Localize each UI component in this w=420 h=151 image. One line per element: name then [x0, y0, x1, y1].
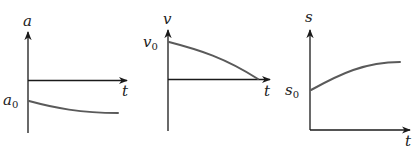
kinematics-graphs: a t a0 v t v0 s t s0 [0, 0, 420, 151]
x-axis-label-t: t [264, 82, 271, 100]
panel-acceleration-time: a t a0 [3, 12, 129, 133]
acceleration-curve [29, 101, 118, 113]
initial-value-label-a0: a0 [3, 91, 18, 110]
initial-value-label-v0: v0 [143, 33, 158, 52]
y-axis-label-a: a [23, 12, 32, 30]
displacement-curve [311, 62, 400, 90]
panel-velocity-time: v t v0 [143, 10, 271, 131]
initial-value-label-s0: s0 [285, 81, 299, 100]
panel-displacement-time: s t s0 [285, 8, 412, 150]
velocity-curve [169, 42, 258, 79]
y-axis-label-v: v [163, 10, 172, 28]
x-axis-label-t: t [122, 82, 129, 100]
y-axis-label-s: s [305, 8, 313, 26]
x-axis-label-t: t [405, 132, 412, 150]
